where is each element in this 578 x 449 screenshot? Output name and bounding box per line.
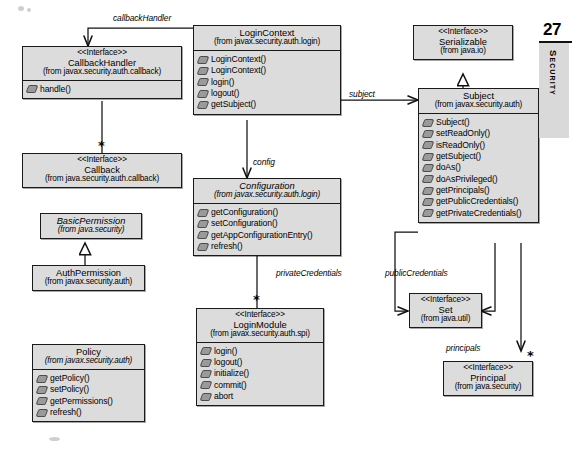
class-operations: login() logout() initialize() commit() a… bbox=[197, 343, 323, 406]
operation-label: doAs() bbox=[436, 162, 461, 173]
operation-row[interactable]: getSubject() bbox=[423, 151, 536, 162]
class-stereotype: <<Interface>> bbox=[26, 156, 178, 165]
edge-label-config: config bbox=[253, 157, 275, 167]
operation-row[interactable]: handle() bbox=[27, 84, 179, 95]
operation-row[interactable]: refresh() bbox=[37, 407, 142, 418]
operation-row[interactable]: getConfiguration() bbox=[198, 207, 338, 218]
class-header: <<Interface>> Set (from java.util) bbox=[410, 294, 481, 327]
class-package: (from java.util) bbox=[413, 315, 478, 324]
class-package: (from java.security.auth.callback) bbox=[26, 175, 178, 184]
class-header: <<Interface>> CallbackHandler (from java… bbox=[23, 47, 181, 80]
class-operations: getConfiguration() setConfiguration() ge… bbox=[194, 204, 340, 255]
operation-row[interactable]: getPermissions() bbox=[37, 396, 142, 407]
class-package: (from javax.security.auth.login) bbox=[197, 38, 337, 47]
operation-row[interactable]: initialize() bbox=[201, 368, 321, 379]
operation-row[interactable]: logout() bbox=[201, 357, 321, 368]
operation-row[interactable]: LoginContext() bbox=[198, 65, 338, 76]
operation-row[interactable]: setConfiguration() bbox=[198, 218, 338, 229]
method-icon bbox=[196, 90, 209, 98]
operation-label: isReadOnly() bbox=[436, 140, 485, 151]
operation-row[interactable]: abort bbox=[201, 391, 321, 402]
method-icon bbox=[199, 370, 212, 378]
method-icon bbox=[421, 164, 434, 172]
operation-label: getAppConfigurationEntry() bbox=[211, 230, 313, 241]
operation-row[interactable]: setPolicy() bbox=[37, 384, 142, 395]
class-box-policy[interactable]: Policy (from javax.security.auth) getPol… bbox=[32, 344, 145, 422]
class-box-subject[interactable]: Subject (from javax.security.auth) Subje… bbox=[418, 88, 539, 223]
class-header: LoginContext (from javax.security.auth.l… bbox=[194, 26, 340, 50]
class-box-serializable[interactable]: <<Interface>> Serializable (from java.io… bbox=[413, 25, 513, 60]
method-icon bbox=[196, 231, 209, 239]
class-box-callbackhandler[interactable]: <<Interface>> CallbackHandler (from java… bbox=[22, 46, 182, 99]
method-icon bbox=[421, 119, 434, 127]
method-icon bbox=[199, 347, 212, 355]
class-package: (from java.security) bbox=[44, 226, 138, 235]
edge-label-subject: subject bbox=[349, 89, 375, 99]
operation-row[interactable]: getAppConfigurationEntry() bbox=[198, 230, 338, 241]
method-icon bbox=[421, 209, 434, 217]
class-box-authpermission[interactable]: AuthPermission (from javax.security.auth… bbox=[32, 265, 145, 291]
operation-label: initialize() bbox=[214, 368, 249, 379]
operation-label: getPolicy() bbox=[50, 373, 90, 384]
method-icon bbox=[35, 397, 48, 405]
chapter-tab-label: Security bbox=[548, 50, 559, 96]
method-icon bbox=[421, 130, 434, 138]
class-header: <<Interface>> Callback (from java.securi… bbox=[23, 154, 181, 187]
operation-row[interactable]: Subject() bbox=[423, 117, 536, 128]
method-icon bbox=[199, 393, 212, 401]
operation-label: refresh() bbox=[50, 407, 82, 418]
class-header: BasicPermission (from java.security) bbox=[41, 214, 141, 238]
class-package: (from javax.security.auth) bbox=[36, 278, 141, 287]
operation-row[interactable]: getPublicCredentials() bbox=[423, 196, 536, 207]
method-icon bbox=[199, 359, 212, 367]
operation-label: LoginContext() bbox=[211, 65, 266, 76]
operation-label: commit() bbox=[214, 380, 247, 391]
operation-row[interactable]: LoginContext() bbox=[198, 54, 338, 65]
edge-multiplicity-loginmodule: * bbox=[253, 293, 260, 306]
operation-label: doAsPrivileged() bbox=[436, 174, 497, 185]
method-icon bbox=[421, 187, 434, 195]
class-stereotype: <<Interface>> bbox=[417, 28, 509, 37]
class-header: <<Interface>> Principal (from java.secur… bbox=[444, 362, 532, 395]
class-operations: handle() bbox=[23, 81, 181, 98]
edge-label-privatecredentials: privateCredentials bbox=[276, 268, 342, 278]
operation-row[interactable]: commit() bbox=[201, 380, 321, 391]
class-operations: Subject() setReadOnly() isReadOnly() get… bbox=[419, 114, 538, 222]
method-icon bbox=[196, 78, 209, 86]
operation-row[interactable]: doAs() bbox=[423, 162, 536, 173]
operation-row[interactable]: setReadOnly() bbox=[423, 128, 536, 139]
operation-label: LoginContext() bbox=[211, 54, 266, 65]
class-header: <<Interface>> LoginModule (from javax.se… bbox=[197, 309, 323, 342]
operation-label: getSubject() bbox=[211, 99, 256, 110]
operation-label: getPermissions() bbox=[50, 396, 113, 407]
operation-row[interactable]: isReadOnly() bbox=[423, 140, 536, 151]
operation-row[interactable]: getPrincipals() bbox=[423, 185, 536, 196]
class-stereotype: <<Interface>> bbox=[413, 296, 478, 305]
operation-label: login() bbox=[214, 346, 237, 357]
class-box-loginmodule[interactable]: <<Interface>> LoginModule (from javax.se… bbox=[196, 308, 324, 406]
operation-row[interactable]: getSubject() bbox=[198, 99, 338, 110]
class-box-configuration[interactable]: Configuration (from javax.security.auth.… bbox=[193, 178, 341, 256]
operation-row[interactable]: login() bbox=[198, 77, 338, 88]
method-icon bbox=[421, 153, 434, 161]
class-box-principal[interactable]: <<Interface>> Principal (from java.secur… bbox=[443, 361, 533, 396]
operation-row[interactable]: refresh() bbox=[198, 241, 338, 252]
operation-row[interactable]: doAsPrivileged() bbox=[423, 174, 536, 185]
class-header: Subject (from javax.security.auth) bbox=[419, 89, 538, 113]
operation-label: Subject() bbox=[436, 117, 470, 128]
class-box-logincontext[interactable]: LoginContext (from javax.security.auth.l… bbox=[193, 25, 341, 115]
operation-label: getPublicCredentials() bbox=[436, 196, 518, 207]
method-icon bbox=[421, 141, 434, 149]
scan-speck bbox=[49, 437, 60, 441]
operation-row[interactable]: logout() bbox=[198, 88, 338, 99]
operation-label: setConfiguration() bbox=[211, 218, 278, 229]
operation-row[interactable]: getPolicy() bbox=[37, 373, 142, 384]
class-stereotype: <<Interface>> bbox=[447, 364, 529, 373]
class-box-set[interactable]: <<Interface>> Set (from java.util) bbox=[409, 293, 482, 328]
operation-label: handle() bbox=[40, 84, 71, 95]
operation-row[interactable]: getPrivateCredentials() bbox=[423, 208, 536, 219]
operation-row[interactable]: login() bbox=[201, 346, 321, 357]
class-box-callback[interactable]: <<Interface>> Callback (from java.securi… bbox=[22, 153, 182, 188]
class-box-basicpermission[interactable]: BasicPermission (from java.security) bbox=[40, 213, 142, 239]
edge-multiplicity-principals: * bbox=[527, 349, 534, 362]
